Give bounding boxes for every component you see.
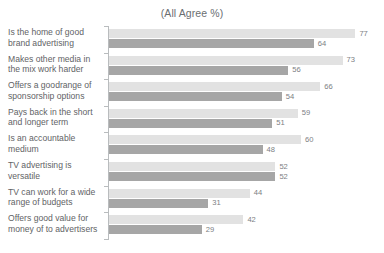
axis-tick [104, 79, 108, 80]
bar-series-1 [109, 189, 250, 198]
bar-value-label: 29 [206, 225, 214, 234]
bar-series-2 [109, 145, 263, 154]
bar-value-label: 54 [286, 92, 294, 101]
bar-value-label: 64 [318, 39, 326, 48]
bar-series-2 [109, 66, 288, 75]
axis-tick [104, 132, 108, 133]
axis-tick [104, 212, 108, 213]
axis-tick [104, 53, 108, 54]
bar-value-label: 44 [254, 188, 262, 197]
axis-tick [104, 239, 108, 240]
bar-series-2 [109, 199, 208, 208]
bar-series-2 [109, 39, 314, 48]
bar-value-label: 52 [279, 172, 287, 181]
bar-series-1 [109, 82, 320, 91]
plot-area: Is the home of good brand advertising776… [0, 26, 384, 242]
bar-series-2 [109, 225, 202, 234]
bar-series-2 [109, 92, 282, 101]
category-label: TV advertising is versatile [8, 160, 104, 181]
bar-series-2 [109, 119, 272, 128]
category-label: Offers a goodrange of sponsorship option… [8, 80, 104, 101]
axis-tick [104, 26, 108, 27]
category-label: Offers good value for money of to advert… [8, 213, 104, 234]
category-label: Is an accountable medium [8, 133, 104, 154]
bar-value-label: 56 [292, 65, 300, 74]
bar-value-label: 42 [247, 215, 255, 224]
bar-value-label: 77 [359, 29, 367, 38]
bar-series-1 [109, 29, 355, 38]
chart-title: (All Agree %) [0, 7, 384, 19]
category-label: Pays back in the short and longer term [8, 107, 104, 128]
bar-series-1 [109, 135, 301, 144]
bar-value-label: 48 [267, 145, 275, 154]
axis-tick [104, 106, 108, 107]
bar-series-1 [109, 56, 343, 65]
bar-series-2 [109, 172, 275, 181]
axis-tick [104, 186, 108, 187]
bar-value-label: 51 [276, 118, 284, 127]
bar-value-label: 31 [212, 198, 220, 207]
bar-series-1 [109, 109, 298, 118]
bar-series-1 [109, 215, 243, 224]
bar-value-label: 59 [302, 108, 310, 117]
bar-value-label: 73 [347, 55, 355, 64]
bar-value-label: 66 [324, 82, 332, 91]
bar-chart: (All Agree %) Is the home of good brand … [0, 0, 384, 253]
bar-value-label: 60 [305, 135, 313, 144]
bar-series-1 [109, 162, 275, 171]
axis-tick [104, 159, 108, 160]
category-label: Makes other media in the mix work harder [8, 54, 104, 75]
bar-value-label: 52 [279, 162, 287, 171]
category-label: TV can work for a wide range of budgets [8, 187, 104, 208]
category-label: Is the home of good brand advertising [8, 27, 104, 48]
